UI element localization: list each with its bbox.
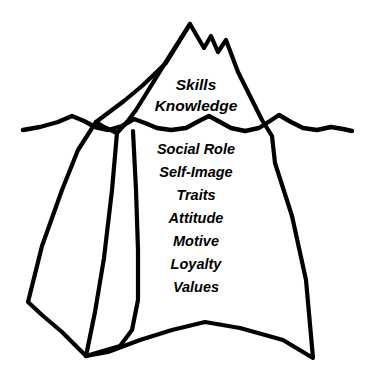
label-loyalty: Loyalty: [171, 256, 223, 272]
label-knowledge: Knowledge: [155, 97, 238, 114]
label-motive: Motive: [173, 233, 219, 249]
label-skills: Skills: [176, 76, 217, 93]
label-traits: Traits: [176, 187, 215, 203]
iceberg-illustration: Skills Knowledge Social Role Self-Image …: [0, 0, 371, 386]
label-social-role: Social Role: [157, 141, 235, 157]
label-attitude: Attitude: [168, 210, 224, 226]
iceberg-diagram: Skills Knowledge Social Role Self-Image …: [0, 0, 371, 386]
iceberg-body-fill: [28, 24, 313, 358]
label-values: Values: [173, 279, 219, 295]
label-self-image: Self-Image: [159, 164, 232, 180]
